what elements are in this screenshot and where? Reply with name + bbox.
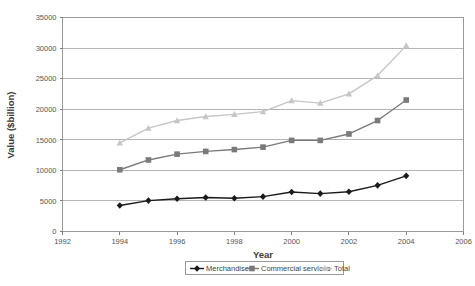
legend-marker-square bbox=[249, 266, 255, 272]
series-total bbox=[117, 42, 410, 145]
data-point-2001 bbox=[317, 138, 323, 144]
data-point-1999 bbox=[260, 193, 266, 200]
data-point-1997 bbox=[203, 194, 209, 201]
y-tick-label-10000: 10000 bbox=[36, 166, 57, 175]
data-point-1997 bbox=[203, 149, 209, 155]
y-tick-label-20000: 20000 bbox=[36, 105, 57, 114]
chart-legend: MerchandiseCommercial servicesTotal bbox=[186, 262, 351, 275]
x-tick-label-1994: 1994 bbox=[111, 237, 128, 246]
data-point-2003 bbox=[375, 118, 381, 124]
x-tick-label-2002: 2002 bbox=[341, 237, 358, 246]
data-point-2004 bbox=[403, 173, 409, 180]
y-tick-label-5000: 5000 bbox=[40, 197, 57, 206]
data-point-2001 bbox=[317, 190, 323, 197]
series-merchandise bbox=[117, 173, 410, 209]
x-tick-label-2004: 2004 bbox=[398, 237, 415, 246]
data-point-2000 bbox=[289, 189, 295, 196]
x-axis-ticks: 19921994199619982000200220042006 bbox=[54, 232, 472, 246]
data-point-2002 bbox=[346, 188, 352, 195]
data-point-1994 bbox=[117, 202, 123, 209]
y-tick-label-15000: 15000 bbox=[36, 136, 57, 145]
y-axis-title: Value ($billion) bbox=[5, 91, 16, 158]
data-point-2004 bbox=[403, 42, 409, 48]
data-point-1998 bbox=[232, 147, 238, 153]
data-point-2002 bbox=[346, 91, 352, 97]
legend-label: Total bbox=[334, 264, 350, 273]
series-line bbox=[120, 46, 406, 143]
x-tick-label-2000: 2000 bbox=[283, 237, 300, 246]
y-tick-label-0: 0 bbox=[52, 227, 56, 236]
data-point-1994 bbox=[117, 167, 123, 173]
x-tick-label-1998: 1998 bbox=[226, 237, 243, 246]
y-tick-label-35000: 35000 bbox=[36, 13, 57, 22]
chart-container: 05000100001500020000250003000035000 1992… bbox=[0, 0, 475, 286]
data-point-1999 bbox=[260, 144, 266, 150]
data-point-1995 bbox=[145, 197, 151, 204]
data-point-1996 bbox=[174, 151, 180, 157]
y-axis-ticks: 05000100001500020000250003000035000 bbox=[36, 13, 63, 236]
data-point-2003 bbox=[374, 182, 380, 189]
x-axis-title: Year bbox=[253, 249, 273, 260]
data-point-1995 bbox=[146, 157, 152, 163]
data-point-2002 bbox=[346, 131, 352, 137]
x-tick-label-1992: 1992 bbox=[54, 237, 71, 246]
legend-label: Merchandise bbox=[206, 264, 249, 273]
data-point-2000 bbox=[289, 138, 295, 144]
y-tick-label-30000: 30000 bbox=[36, 44, 57, 53]
x-tick-label-1996: 1996 bbox=[169, 237, 186, 246]
data-point-2004 bbox=[403, 97, 409, 103]
y-tick-label-25000: 25000 bbox=[36, 74, 57, 83]
x-tick-label-2006: 2006 bbox=[455, 237, 472, 246]
data-series-group bbox=[117, 42, 410, 209]
line-chart: 05000100001500020000250003000035000 1992… bbox=[0, 0, 475, 286]
